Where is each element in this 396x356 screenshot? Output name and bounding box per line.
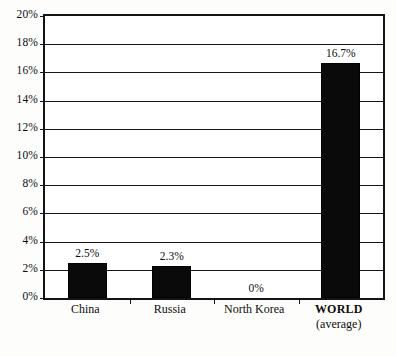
gridline [45, 44, 383, 45]
category-name: North Korea [224, 302, 284, 317]
plot-area: 2.5%2.3%0%16.7% [43, 14, 385, 300]
y-axis-tick-mark [40, 270, 45, 271]
y-axis-tick-mark [40, 213, 45, 214]
y-axis-tick-label: 6% [0, 206, 38, 217]
y-axis-tick-mark [40, 242, 45, 243]
bar [68, 263, 107, 298]
y-axis-tick-label: 2% [0, 262, 38, 273]
y-axis-tick-label: 4% [0, 234, 38, 245]
x-axis-category-label: North Korea [224, 302, 284, 317]
y-axis-tick-mark [40, 72, 45, 73]
x-axis-category-label: WORLD(average) [315, 302, 363, 332]
y-axis-tick-label: 0% [0, 291, 38, 302]
x-axis-labels: ChinaRussiaNorth KoreaWORLD(average) [43, 302, 381, 356]
y-axis-tick-mark [40, 298, 45, 299]
bar [152, 266, 191, 298]
x-axis-category-label: Russia [154, 302, 186, 317]
bar-value-label: 16.7% [326, 47, 356, 59]
y-axis-tick-mark [40, 185, 45, 186]
bar-value-label: 0% [249, 282, 264, 294]
y-axis-tick-mark [40, 16, 45, 17]
bar-value-label: 2.5% [75, 247, 99, 259]
bar-chart: 20%18%16%14%12%10%8%6%4%2%0% 2.5%2.3%0%1… [0, 0, 396, 356]
y-axis-tick-label: 8% [0, 178, 38, 189]
category-sublabel: (average) [315, 317, 363, 332]
y-axis-tick-label: 14% [0, 93, 38, 104]
category-name: China [71, 302, 100, 317]
y-axis-tick-mark [40, 157, 45, 158]
y-axis-tick-label: 18% [0, 37, 38, 48]
bar-value-label: 2.3% [160, 250, 184, 262]
y-axis-tick-label: 20% [0, 9, 38, 20]
y-axis-tick-mark [40, 129, 45, 130]
y-axis-tick-label: 12% [0, 121, 38, 132]
bar [321, 63, 360, 298]
y-axis-tick-mark [40, 44, 45, 45]
y-axis-labels: 20%18%16%14%12%10%8%6%4%2%0% [0, 0, 38, 356]
x-axis-category-label: China [71, 302, 100, 317]
y-axis-tick-label: 16% [0, 65, 38, 76]
y-axis-tick-mark [40, 101, 45, 102]
y-axis-tick-label: 10% [0, 150, 38, 161]
category-name: WORLD [315, 302, 363, 317]
category-name: Russia [154, 302, 186, 317]
